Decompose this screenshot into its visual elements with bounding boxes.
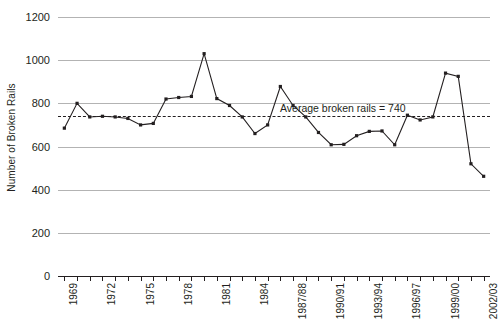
data-point bbox=[139, 123, 142, 126]
x-tick-label: 1993/94 bbox=[373, 283, 384, 319]
x-tick bbox=[191, 276, 192, 281]
x-tick bbox=[77, 276, 78, 281]
x-tick-label: 1969 bbox=[68, 283, 79, 305]
data-point bbox=[164, 97, 167, 100]
x-tick-label: 1987/88 bbox=[297, 283, 308, 319]
data-point bbox=[253, 132, 256, 135]
y-tick-label: 600 bbox=[6, 141, 50, 153]
x-tick bbox=[382, 276, 383, 281]
x-tick-label: 1972 bbox=[106, 283, 117, 305]
data-point bbox=[114, 115, 117, 118]
data-point bbox=[152, 122, 155, 125]
data-point bbox=[482, 175, 485, 178]
data-point bbox=[63, 127, 66, 130]
x-tick bbox=[128, 276, 129, 281]
y-tick-label: 400 bbox=[6, 184, 50, 196]
average-line-label: Average broken rails = 740 bbox=[280, 102, 406, 114]
y-tick-label: 200 bbox=[6, 227, 50, 239]
data-point bbox=[317, 131, 320, 134]
x-tick bbox=[369, 276, 370, 281]
x-tick bbox=[268, 276, 269, 281]
x-tick-label: 1978 bbox=[183, 283, 194, 305]
x-tick-label: 1990/91 bbox=[335, 283, 346, 319]
x-tick bbox=[64, 276, 65, 281]
x-tick bbox=[242, 276, 243, 281]
x-tick bbox=[458, 276, 459, 281]
x-tick-label: 1999/00 bbox=[450, 283, 461, 319]
series-broken-rails bbox=[58, 17, 490, 276]
data-point bbox=[355, 134, 358, 137]
data-point bbox=[75, 102, 78, 105]
data-point bbox=[279, 85, 282, 88]
x-tick bbox=[90, 276, 91, 281]
data-point bbox=[177, 96, 180, 99]
data-point bbox=[431, 115, 434, 118]
data-point bbox=[380, 129, 383, 132]
x-tick bbox=[318, 276, 319, 281]
data-point bbox=[444, 72, 447, 75]
data-point bbox=[457, 75, 460, 78]
data-point bbox=[126, 117, 129, 120]
x-tick bbox=[141, 276, 142, 281]
x-tick-label: 1975 bbox=[145, 283, 156, 305]
data-point bbox=[190, 95, 193, 98]
x-tick bbox=[204, 276, 205, 281]
data-point bbox=[88, 115, 91, 118]
data-point bbox=[342, 143, 345, 146]
data-point bbox=[101, 115, 104, 118]
x-tick bbox=[280, 276, 281, 281]
x-tick bbox=[344, 276, 345, 281]
data-point bbox=[228, 104, 231, 107]
x-tick-label: 2002/03 bbox=[488, 283, 499, 319]
x-tick bbox=[153, 276, 154, 281]
x-tick bbox=[357, 276, 358, 281]
data-point bbox=[469, 162, 472, 165]
x-tick bbox=[115, 276, 116, 281]
x-tick bbox=[166, 276, 167, 281]
y-tick-label: 1200 bbox=[6, 11, 50, 23]
x-tick bbox=[255, 276, 256, 281]
x-tick-label: 1981 bbox=[221, 283, 232, 305]
x-axis-line bbox=[58, 276, 490, 277]
data-point bbox=[266, 123, 269, 126]
x-tick bbox=[395, 276, 396, 281]
x-tick bbox=[433, 276, 434, 281]
y-tick-label: 800 bbox=[6, 97, 50, 109]
data-point bbox=[304, 115, 307, 118]
x-tick bbox=[102, 276, 103, 281]
x-tick bbox=[331, 276, 332, 281]
data-point bbox=[215, 97, 218, 100]
x-tick bbox=[484, 276, 485, 281]
data-point bbox=[368, 130, 371, 133]
plot-area bbox=[58, 17, 490, 276]
data-point bbox=[406, 114, 409, 117]
data-point bbox=[393, 143, 396, 146]
x-tick bbox=[420, 276, 421, 281]
x-tick bbox=[230, 276, 231, 281]
data-point bbox=[241, 115, 244, 118]
x-tick-label: 1996/97 bbox=[411, 283, 422, 319]
y-tick-label: 1000 bbox=[6, 54, 50, 66]
x-tick bbox=[446, 276, 447, 281]
data-point bbox=[419, 118, 422, 121]
x-tick bbox=[407, 276, 408, 281]
x-tick-label: 1984 bbox=[259, 283, 270, 305]
data-point bbox=[330, 143, 333, 146]
y-tick-label: 0 bbox=[6, 270, 50, 282]
x-tick bbox=[217, 276, 218, 281]
data-point bbox=[203, 52, 206, 55]
x-tick bbox=[471, 276, 472, 281]
series-line bbox=[64, 54, 483, 177]
x-tick bbox=[306, 276, 307, 281]
x-tick bbox=[179, 276, 180, 281]
x-tick bbox=[293, 276, 294, 281]
